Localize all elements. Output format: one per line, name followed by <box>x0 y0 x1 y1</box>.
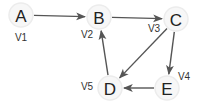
graph-diagram: AV1BV2CV3DV5EV4 <box>0 0 198 111</box>
vertex-id-label: V5 <box>81 81 94 92</box>
edge-d-to-b <box>101 31 108 75</box>
edge-b-to-c <box>112 17 162 18</box>
node-label: B <box>93 9 104 28</box>
node-a: AV1 <box>9 3 33 43</box>
nodes-group: AV1BV2CV3DV5EV4 <box>9 3 191 100</box>
node-c: CV3 <box>148 7 188 34</box>
edge-a-to-b <box>34 15 85 16</box>
edge-c-to-d <box>120 28 167 77</box>
node-label: A <box>15 7 27 26</box>
vertex-id-label: V1 <box>15 32 28 43</box>
vertex-id-label: V3 <box>148 23 161 34</box>
node-label: D <box>104 80 116 99</box>
node-e: EV4 <box>155 71 191 101</box>
node-d: DV5 <box>81 76 122 100</box>
node-b: BV2 <box>81 5 111 40</box>
edge-c-to-e <box>169 32 175 74</box>
node-label: E <box>161 80 172 99</box>
vertex-id-label: V2 <box>81 29 94 40</box>
vertex-id-label: V4 <box>178 71 191 82</box>
node-label: C <box>170 11 182 30</box>
